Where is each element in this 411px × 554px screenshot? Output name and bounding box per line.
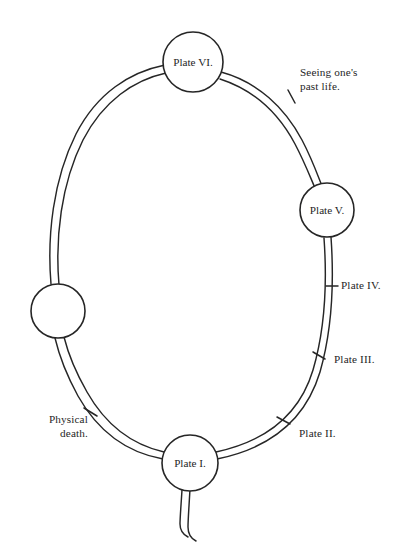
band-outer-lower-right: [217, 237, 332, 459]
tail-inner: [188, 489, 196, 541]
annotation-plate-iii: Plate III.: [334, 353, 408, 367]
annotation-seeing-past-life: Seeing one's past life.: [300, 66, 405, 93]
annotation-plate-iv: Plate IV.: [341, 279, 411, 293]
band-outer-lower-left: [55, 338, 163, 459]
annotation-plate-ii: Plate II.: [299, 427, 373, 441]
tick-seeing-past-life: [288, 90, 295, 103]
band-outer-upper-left: [50, 65, 165, 284]
annotation-physical-death: Physical death.: [10, 413, 88, 440]
diagram-canvas: Plate VI. Plate V. Plate I. Seeing one's…: [0, 0, 411, 554]
node-label-plate-i: Plate I.: [140, 457, 240, 469]
band-inner-lower-right: [216, 238, 325, 452]
band-inner-upper-left: [58, 73, 166, 285]
tick-plate-iii: [313, 352, 325, 359]
node-unlabeled-circle[interactable]: [31, 284, 85, 338]
band-inner-upper-right: [220, 79, 315, 188]
node-label-plate-vi: Plate VI.: [143, 56, 243, 68]
node-label-plate-v: Plate V.: [277, 204, 377, 216]
tail-outer: [180, 490, 188, 537]
band-tick-marks: [84, 90, 338, 424]
